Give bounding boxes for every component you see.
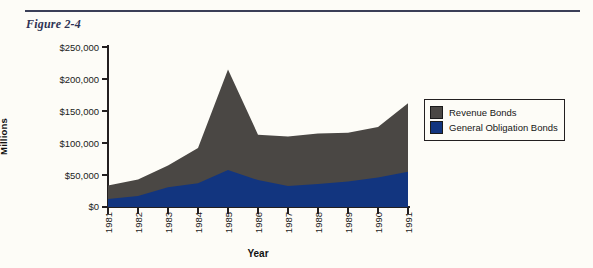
y-tick-label: $50,000: [65, 171, 99, 180]
legend-item-general-obligation-bonds[interactable]: General Obligation Bonds: [430, 121, 558, 134]
x-tick-label: 1981: [104, 212, 113, 233]
y-tick-label: $100,000: [59, 139, 99, 148]
x-tick-label: 1988: [314, 212, 323, 233]
x-tick-label: 1982: [134, 212, 143, 233]
chart-legend: Revenue Bonds General Obligation Bonds: [424, 99, 565, 141]
stacked-area-chart: Millions $250,000 $200,000 $150,000 $100…: [0, 0, 593, 268]
x-tick-label: 1989: [344, 212, 353, 233]
plot-area: [108, 47, 408, 207]
legend-item-label: Revenue Bonds: [449, 107, 517, 118]
y-tick-label: $0: [88, 202, 99, 211]
x-tick-label: 1987: [284, 212, 293, 233]
y-tick-label: $200,000: [59, 75, 99, 84]
figure-container: Figure 2-4 Millions $250,000 $200,000 $1…: [0, 0, 593, 268]
y-tick-label: $250,000: [59, 43, 99, 52]
y-tick-label: $150,000: [59, 107, 99, 116]
legend-swatch-icon: [430, 106, 443, 119]
x-tick-label: 1986: [254, 212, 263, 233]
x-tick-label: 1984: [194, 212, 203, 233]
legend-swatch-icon: [430, 121, 443, 134]
x-tick-label: 1990: [374, 212, 383, 233]
x-tick-label: 1991: [404, 212, 413, 233]
legend-item-label: General Obligation Bonds: [449, 122, 558, 133]
legend-item-revenue-bonds[interactable]: Revenue Bonds: [430, 106, 558, 119]
area-series-svg: [108, 47, 408, 207]
y-axis-labels: $250,000 $200,000 $150,000 $100,000 $50,…: [0, 0, 99, 268]
x-axis-title: Year: [108, 248, 408, 259]
x-tick-label: 1983: [164, 212, 173, 233]
x-tick-label: 1985: [224, 212, 233, 233]
